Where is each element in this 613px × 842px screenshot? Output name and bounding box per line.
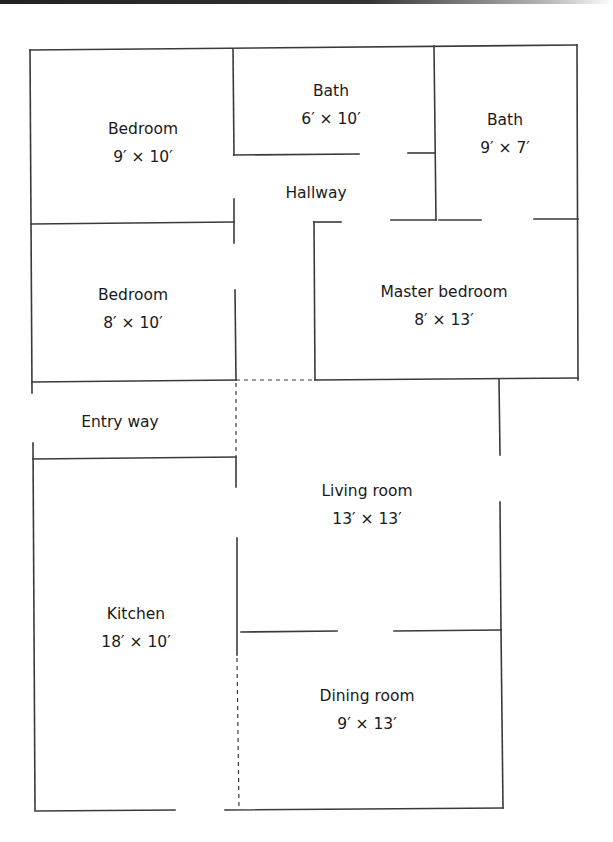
wall-master-left — [314, 222, 315, 380]
room-name: Bath — [313, 82, 349, 100]
room-name: Master bedroom — [380, 283, 507, 301]
room-label-living-room: Living room 13′ × 13′ — [321, 480, 412, 530]
wall-dining-right — [501, 630, 503, 808]
room-dimensions: 8′ × 10′ — [98, 312, 168, 334]
room-name: Bedroom — [98, 286, 168, 304]
wall-outer-bottom-left — [35, 810, 175, 811]
room-dimensions: 9′ × 13′ — [319, 713, 414, 735]
wall-bath1-left — [233, 49, 234, 155]
wall-outer-left-lower — [33, 443, 35, 810]
dashed-boundary-kitchen-dining — [237, 658, 239, 809]
room-name: Dining room — [319, 687, 414, 705]
room-dimensions: 9′ × 10′ — [108, 146, 178, 168]
wall-bath2-left — [434, 46, 436, 220]
wall-outer-bottom-right — [225, 808, 503, 810]
room-name: Hallway — [285, 184, 346, 202]
wall-hall-left-lower — [235, 290, 236, 380]
room-label-kitchen: Kitchen 18′ × 10′ — [101, 603, 170, 653]
room-name: Bedroom — [108, 120, 178, 138]
wall-outer-right-upper — [577, 45, 578, 380]
room-dimensions: 13′ × 13′ — [321, 508, 412, 530]
room-name: Kitchen — [107, 605, 165, 623]
room-dimensions: 9′ × 7′ — [480, 137, 530, 159]
room-name: Bath — [487, 111, 523, 129]
wall-kitchen-top — [33, 457, 236, 459]
wall-living-right-upper — [499, 379, 500, 455]
room-label-bath-1: Bath 6′ × 10′ — [301, 80, 360, 130]
wall-outer-top — [30, 45, 577, 50]
wall-dining-top-left — [241, 631, 337, 632]
wall-bedroom1-bottom — [31, 222, 234, 224]
wall-outer-left-upper — [30, 50, 32, 393]
wall-master-bottom — [315, 378, 578, 380]
room-label-bedroom-1: Bedroom 9′ × 10′ — [108, 118, 178, 168]
room-dimensions: 8′ × 13′ — [380, 309, 507, 331]
room-dimensions: 18′ × 10′ — [101, 631, 170, 653]
room-label-bedroom-2: Bedroom 8′ × 10′ — [98, 284, 168, 334]
room-label-bath-2: Bath 9′ × 7′ — [480, 109, 530, 159]
wall-living-right-mid — [500, 502, 501, 630]
room-label-dining-room: Dining room 9′ × 13′ — [319, 685, 414, 735]
room-label-master-bedroom: Master bedroom 8′ × 13′ — [380, 281, 507, 331]
room-dimensions: 6′ × 10′ — [301, 108, 360, 130]
room-label-entry-way: Entry way — [81, 411, 159, 433]
wall-bedroom2-bottom — [32, 380, 236, 382]
room-name: Living room — [321, 482, 412, 500]
wall-dining-top-right — [394, 630, 501, 631]
room-name: Entry way — [81, 413, 159, 431]
wall-bath1-bottom — [234, 154, 359, 155]
room-label-hallway: Hallway — [285, 182, 346, 204]
